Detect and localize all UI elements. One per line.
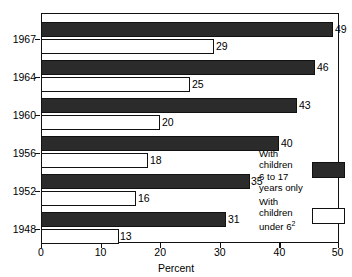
bar-value-light-1967: 29 — [216, 41, 228, 52]
bar-dark-1967 — [41, 22, 333, 37]
year-label-1967: 1967 — [13, 34, 36, 45]
xtick-label-0: 0 — [38, 247, 44, 258]
bar-dark-1952 — [41, 174, 250, 189]
bar-value-light-1964: 25 — [192, 79, 204, 90]
bar-light-1960 — [41, 115, 160, 130]
bar-light-1964 — [41, 77, 190, 92]
bar-light-1952 — [41, 191, 136, 206]
year-label-1948: 1948 — [13, 224, 36, 235]
xtick-label-50: 50 — [332, 247, 344, 258]
xtick-label-10: 10 — [95, 247, 107, 258]
year-label-1964: 1964 — [13, 72, 36, 83]
legend-footnote-marker: 2 — [292, 220, 296, 227]
bar-dark-1956 — [41, 136, 279, 151]
legend-entry-children-under-6: With children under 62 — [259, 196, 347, 233]
chart-figure: 1967 1964 1960 1956 1952 1948 49 29 46 2… — [0, 0, 352, 277]
chart-legend: With children 6 to 17 years only With ch… — [259, 148, 347, 235]
year-tick-1964 — [35, 77, 40, 78]
bar-value-dark-1964: 46 — [317, 62, 329, 73]
bar-dark-1948 — [41, 212, 226, 227]
year-axis: 1967 1964 1960 1956 1952 1948 — [0, 13, 39, 243]
xtick-label-40: 40 — [274, 247, 286, 258]
x-axis-title: Percent — [0, 263, 352, 274]
x-axis-ticks — [41, 243, 339, 249]
xtick-label-30: 30 — [214, 247, 226, 258]
year-tick-1967 — [35, 39, 40, 40]
bar-value-dark-1967: 49 — [335, 24, 347, 35]
year-tick-1960 — [35, 115, 40, 116]
year-tick-1956 — [35, 153, 40, 154]
bar-light-1967 — [41, 39, 214, 54]
year-label-1956: 1956 — [13, 148, 36, 159]
bar-light-1948 — [41, 229, 119, 244]
light-swatch — [312, 208, 345, 224]
dark-swatch — [312, 162, 345, 178]
legend-entry-children-6-to-17: With children 6 to 17 years only — [259, 148, 347, 194]
year-tick-1948 — [35, 229, 40, 230]
bar-value-dark-1960: 43 — [299, 100, 311, 111]
bar-dark-1960 — [41, 98, 297, 113]
cut-off-title — [118, 0, 248, 4]
legend-label-children-6-to-17: With children 6 to 17 years only — [259, 148, 307, 194]
bar-value-light-1948: 13 — [120, 231, 132, 242]
legend-label-children-under-6: With children under 62 — [259, 196, 307, 233]
year-tick-1952 — [35, 191, 40, 192]
year-label-1952: 1952 — [13, 186, 36, 197]
bar-dark-1964 — [41, 60, 315, 75]
bar-value-dark-1948: 31 — [228, 214, 240, 225]
bar-value-light-1956: 18 — [150, 155, 162, 166]
xtick-label-20: 20 — [154, 247, 166, 258]
bar-value-light-1960: 20 — [162, 117, 174, 128]
year-label-1960: 1960 — [13, 110, 36, 121]
bar-value-dark-1956: 40 — [281, 138, 293, 149]
bar-value-light-1952: 16 — [138, 193, 150, 204]
bar-light-1956 — [41, 153, 148, 168]
